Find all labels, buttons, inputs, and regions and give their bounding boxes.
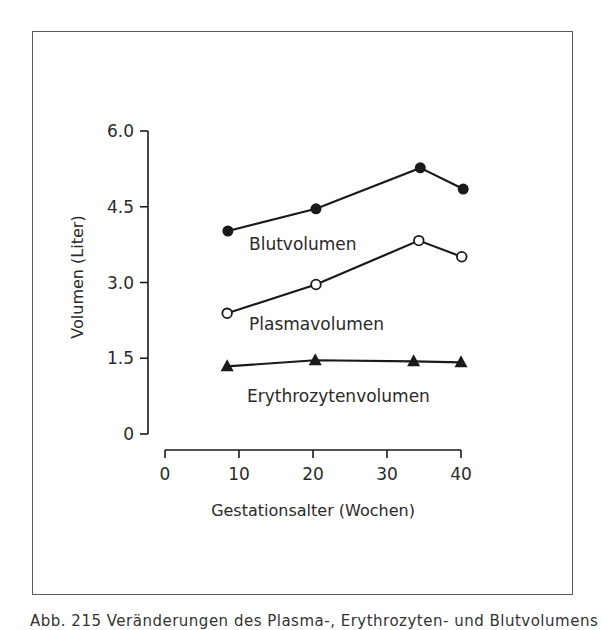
x-tick-label: 40 xyxy=(450,464,472,484)
series-group xyxy=(221,162,469,371)
y-axis: 01.53.04.56.0 xyxy=(107,121,148,444)
series-label: Erythrozytenvolumen xyxy=(247,386,430,406)
y-tick-label: 6.0 xyxy=(107,121,134,141)
series-line xyxy=(227,360,461,366)
open-circle-marker xyxy=(311,280,321,290)
x-tick-label: 30 xyxy=(376,464,398,484)
open-circle-marker xyxy=(222,309,232,319)
series-blutvolumen xyxy=(222,162,468,236)
open-circle-marker xyxy=(414,236,424,246)
y-tick-label: 0 xyxy=(123,424,134,444)
x-tick-label: 10 xyxy=(228,464,250,484)
y-tick-label: 1.5 xyxy=(107,348,134,368)
y-tick-label: 3.0 xyxy=(107,273,134,293)
x-tick-label: 0 xyxy=(160,464,171,484)
figure-caption: Abb. 215 Veränderungen des Plasma-, Eryt… xyxy=(30,612,598,630)
filled-circle-marker xyxy=(415,162,426,173)
series-label: Plasmavolumen xyxy=(249,314,384,334)
filled-circle-marker xyxy=(458,184,469,195)
y-tick-label: 4.5 xyxy=(107,197,134,217)
series-labels: BlutvolumenPlasmavolumenErythrozytenvolu… xyxy=(247,234,430,406)
open-circle-marker xyxy=(457,252,467,262)
x-tick-label: 20 xyxy=(302,464,324,484)
y-axis-label: Volumen (Liter) xyxy=(68,215,87,338)
x-axis-label: Gestationsalter (Wochen) xyxy=(211,501,415,520)
series-erythrozytenvolumen xyxy=(221,353,468,371)
series-label: Blutvolumen xyxy=(249,234,357,254)
filled-circle-marker xyxy=(310,203,321,214)
filled-circle-marker xyxy=(222,225,233,236)
x-axis: 010203040 xyxy=(160,450,472,484)
series-line xyxy=(228,168,463,231)
